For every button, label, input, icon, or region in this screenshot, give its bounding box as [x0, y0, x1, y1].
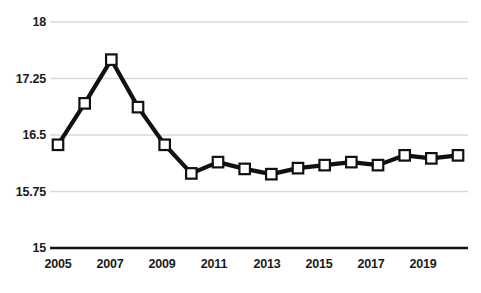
data-point-marker-2016	[346, 157, 357, 168]
x-tick-label-2007: 2007	[83, 258, 137, 271]
gridlines-group	[50, 22, 468, 192]
line-chart-plot	[0, 0, 481, 293]
data-series-group	[53, 54, 464, 179]
data-point-marker-2018	[399, 150, 410, 161]
data-point-marker-2015	[319, 160, 330, 171]
data-point-marker-2014	[293, 163, 304, 174]
data-point-marker-2009	[159, 140, 170, 151]
x-tick-label-2005: 2005	[31, 258, 85, 271]
data-point-marker-2013	[266, 169, 277, 180]
x-tick-label-2019: 2019	[396, 258, 450, 271]
x-tick-label-2015: 2015	[292, 258, 346, 271]
x-tick-label-2017: 2017	[344, 258, 398, 271]
y-tick-label-17p25: 17.25	[2, 73, 46, 86]
y-tick-label-18: 18	[2, 16, 46, 29]
data-point-marker-2010	[186, 168, 197, 179]
data-point-marker-2005	[53, 140, 64, 151]
x-tick-label-2009: 2009	[135, 258, 189, 271]
y-tick-label-16p5: 16.5	[2, 129, 46, 142]
x-tick-label-2011: 2011	[187, 258, 241, 271]
data-point-marker-2011	[213, 157, 224, 168]
data-point-marker-2012	[239, 164, 250, 175]
chart-container: 18 17.25 16.5 15.75 15 2005 2007 2009 20…	[0, 0, 481, 293]
data-point-marker-2008	[133, 102, 144, 113]
y-tick-label-15: 15	[2, 242, 46, 255]
series-markers	[53, 54, 464, 179]
data-point-marker-2019	[426, 153, 437, 164]
data-point-marker-2006	[79, 98, 90, 109]
data-point-marker-2020	[453, 150, 464, 161]
data-point-marker-2017	[373, 160, 384, 171]
y-tick-label-15p75: 15.75	[2, 186, 46, 199]
x-tick-label-2013: 2013	[240, 258, 294, 271]
data-point-marker-2007	[106, 54, 117, 65]
series-line	[58, 60, 458, 175]
